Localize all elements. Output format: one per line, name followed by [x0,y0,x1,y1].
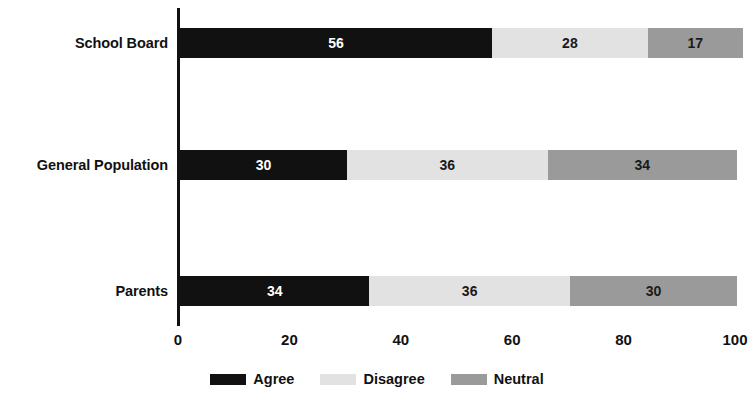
bar-value-label: 34 [548,150,737,180]
bar-value-label: 36 [347,150,548,180]
category-label-parents: Parents [0,275,168,307]
legend-label-neutral: Neutral [494,371,544,387]
chart-legend: Agree Disagree Neutral [0,371,754,387]
legend-swatch-icon-neutral [451,374,487,385]
bar-segment-neutral[interactable]: 17 [648,28,743,58]
legend-label-disagree: Disagree [363,371,424,387]
legend-label-agree: Agree [253,371,294,387]
x-axis-tick-0: 0 [148,331,208,348]
bar-segment-neutral[interactable]: 34 [548,150,737,180]
stacked-bar-chart: School Board 56 28 17 General Population… [0,0,754,400]
x-axis-tick-40: 40 [371,331,431,348]
bar-value-label: 36 [369,276,570,306]
x-axis-tick-20: 20 [259,331,319,348]
bar-segment-neutral[interactable]: 30 [570,276,737,306]
bar-segment-agree[interactable]: 34 [180,276,369,306]
bar-track-parents: 34 36 30 [180,276,737,306]
legend-item-disagree[interactable]: Disagree [320,371,424,387]
bar-segment-agree[interactable]: 56 [180,28,492,58]
legend-item-agree[interactable]: Agree [210,371,294,387]
bar-value-label: 17 [648,28,743,58]
bar-row-parents: Parents 34 36 30 [0,275,754,307]
category-label-general-population: General Population [0,149,168,181]
bar-value-label: 30 [570,276,737,306]
bar-track-general-population: 30 36 34 [180,150,737,180]
bar-track-school-board: 56 28 17 [180,28,737,58]
bar-segment-disagree[interactable]: 36 [347,150,548,180]
bar-value-label: 30 [180,150,347,180]
bar-segment-agree[interactable]: 30 [180,150,347,180]
x-axis-tick-100: 100 [705,331,754,348]
x-axis-tick-80: 80 [594,331,654,348]
bar-segment-disagree[interactable]: 36 [369,276,570,306]
bar-segment-disagree[interactable]: 28 [492,28,648,58]
legend-item-neutral[interactable]: Neutral [451,371,544,387]
x-axis-tick-60: 60 [482,331,542,348]
bar-value-label: 56 [180,28,492,58]
bar-row-school-board: School Board 56 28 17 [0,27,754,59]
legend-swatch-icon-agree [210,374,246,385]
bar-row-general-population: General Population 30 36 34 [0,149,754,181]
bar-value-label: 34 [180,276,369,306]
bar-value-label: 28 [492,28,648,58]
legend-swatch-icon-disagree [320,374,356,385]
category-label-school-board: School Board [0,27,168,59]
